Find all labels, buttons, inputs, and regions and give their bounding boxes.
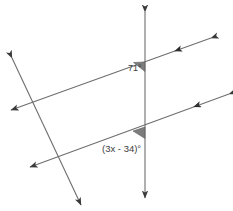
diagonal-transversal-segment	[12, 58, 81, 205]
lower-parallel-line	[30, 94, 229, 167]
upper-parallel-line-segment	[11, 38, 211, 110]
upper-angle-label: 71°	[128, 64, 142, 73]
geometry-canvas	[0, 0, 233, 211]
diagonal-transversal	[12, 58, 81, 205]
upper-parallel-line	[11, 38, 211, 110]
geometry-figure: 71° (3x - 34)°	[0, 0, 233, 211]
lower-angle-label: (3x - 34)°	[102, 144, 141, 154]
lower-parallel-line-segment	[30, 94, 229, 167]
